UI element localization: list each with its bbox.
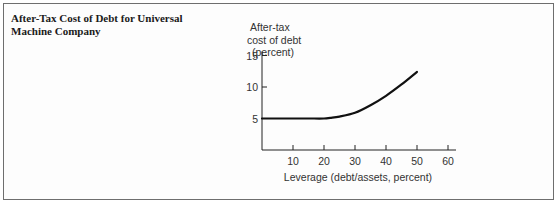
series-line <box>262 72 417 119</box>
y-axis-label-line: cost of debt <box>247 34 301 46</box>
x-tick-label: 30 <box>349 155 361 167</box>
x-tick-label: 10 <box>287 155 299 167</box>
chart-svg: After-taxcost of debt(percent) 51015 102… <box>0 0 558 205</box>
y-tick-label: 15 <box>246 50 258 62</box>
y-axis-label-line: (percent) <box>252 46 294 58</box>
x-tick-label: 60 <box>442 155 454 167</box>
x-axis-label: Leverage (debt/assets, percent) <box>284 171 432 183</box>
y-tick-label: 5 <box>252 113 258 125</box>
y-tick-label: 10 <box>246 81 258 93</box>
x-tick-label: 40 <box>380 155 392 167</box>
x-tick-label: 20 <box>318 155 330 167</box>
x-tick-label: 50 <box>411 155 423 167</box>
y-axis-label-line: After-tax <box>250 21 290 33</box>
